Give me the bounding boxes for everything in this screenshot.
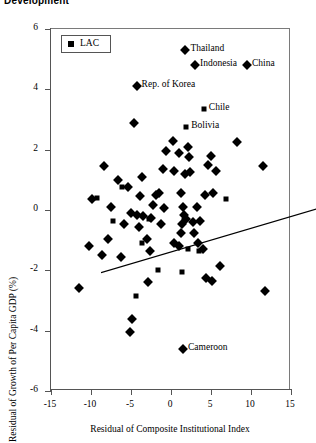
y-axis-title-wrap: Residual of Growth of Per Capita GDP (%) [10, 330, 11, 331]
data-point [148, 201, 158, 211]
y-tick-mark [45, 89, 51, 90]
data-point [113, 175, 123, 185]
data-point [211, 166, 221, 176]
legend-marker-square-icon [68, 41, 74, 47]
x-tick-label: -10 [73, 400, 107, 410]
data-point [242, 60, 252, 70]
x-tick-mark [291, 389, 292, 395]
data-point-label: China [252, 59, 275, 69]
data-point [192, 202, 202, 212]
data-point [169, 166, 179, 176]
y-tick-mark [45, 29, 51, 30]
data-point [185, 247, 190, 252]
data-point-label: Indonesia [200, 59, 237, 69]
y-axis-title: Residual of Growth of Per Capita GDP (%) [8, 242, 18, 442]
x-axis-title: Residual of Composite Institutional Inde… [50, 424, 290, 434]
data-point [135, 191, 145, 201]
x-tick-label: 10 [233, 400, 267, 410]
data-point [176, 188, 186, 198]
data-point-label: Rep. of Korea [142, 81, 196, 91]
data-point [134, 222, 144, 232]
y-tick-label: 0 [12, 204, 38, 214]
data-point [176, 228, 186, 238]
data-point [180, 269, 185, 274]
data-point [168, 136, 178, 146]
legend: LAC [61, 35, 111, 53]
x-tick-label: 0 [153, 400, 187, 410]
legend-label: LAC [80, 39, 99, 49]
data-point [110, 218, 115, 223]
y-tick-label: 4 [12, 83, 38, 93]
data-point [184, 125, 189, 130]
y-tick-mark [45, 210, 51, 211]
figure-scatter-plot: Development -6-4-20246 -15-10-5051015 Th… [0, 0, 316, 443]
data-point [183, 142, 193, 152]
data-point [232, 137, 242, 147]
data-point [158, 164, 168, 174]
data-point [180, 45, 190, 55]
data-point [129, 118, 139, 128]
data-point [174, 148, 184, 158]
data-point [184, 152, 194, 162]
data-point [260, 286, 270, 296]
data-point [127, 314, 137, 324]
data-point-label: Chile [209, 103, 230, 113]
page-title: Development [4, 0, 69, 6]
data-point [203, 160, 213, 170]
data-point [178, 344, 188, 354]
data-point [137, 172, 147, 182]
x-tick-mark [51, 389, 52, 395]
data-point [215, 261, 225, 271]
x-tick-label: -15 [33, 400, 67, 410]
data-point [133, 293, 138, 298]
data-point [174, 241, 184, 251]
data-point [120, 185, 125, 190]
data-point-label: Cameroon [188, 343, 228, 353]
data-point [258, 161, 268, 171]
data-point [208, 188, 218, 198]
y-tick-label: 6 [12, 23, 38, 33]
data-point [95, 195, 100, 200]
y-tick-mark [45, 270, 51, 271]
data-point [146, 217, 151, 222]
data-point [132, 81, 142, 91]
data-point [190, 60, 200, 70]
data-point-label: Bolivia [191, 121, 219, 131]
data-point [189, 228, 199, 238]
data-point [156, 219, 166, 229]
data-point [74, 283, 84, 293]
data-point [224, 197, 229, 202]
y-tick-mark [45, 331, 51, 332]
x-tick-label: -5 [113, 400, 147, 410]
y-tick-label: 2 [12, 144, 38, 154]
data-point [99, 161, 109, 171]
data-point [161, 146, 171, 156]
data-point [97, 250, 107, 260]
data-point [145, 246, 155, 256]
x-tick-mark [91, 389, 92, 395]
y-tick-mark [45, 150, 51, 151]
data-point-label: Thailand [190, 44, 224, 54]
x-tick-label: 15 [273, 400, 307, 410]
x-tick-label: 5 [193, 400, 227, 410]
data-point [106, 202, 116, 212]
x-tick-mark [251, 389, 252, 395]
data-point [197, 248, 202, 253]
data-point [140, 241, 145, 246]
x-tick-mark [171, 389, 172, 395]
data-point [84, 241, 94, 251]
data-point [103, 234, 113, 244]
x-tick-mark [131, 389, 132, 395]
data-point [201, 106, 206, 111]
data-point [116, 252, 126, 262]
data-point [119, 219, 129, 229]
data-point [125, 327, 135, 337]
x-tick-mark [211, 389, 212, 395]
data-point [159, 204, 169, 214]
data-point [156, 268, 161, 273]
data-point [143, 277, 153, 287]
